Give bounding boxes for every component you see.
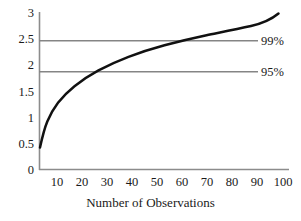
- x-tick-label-40: 40: [126, 176, 139, 189]
- reference-label-99: 99%: [261, 35, 284, 48]
- reference-label-95: 95%: [261, 66, 284, 79]
- x-tick-label-50: 50: [151, 176, 164, 189]
- chart-container: 0 0.5 1 1.5 2 2.5 3 10 20 30 40 50 60 70…: [0, 0, 301, 221]
- x-axis-title: Number of Observations: [0, 196, 301, 209]
- y-tick-label-1-5: 1.5: [4, 85, 34, 98]
- x-tick-label-30: 30: [101, 176, 114, 189]
- x-tick-label-60: 60: [176, 176, 189, 189]
- data-curve: [40, 14, 279, 148]
- x-tick-label-10: 10: [51, 176, 64, 189]
- x-tick-label-80: 80: [226, 176, 239, 189]
- y-tick-label-3: 3: [4, 7, 34, 20]
- x-tick-label-100: 100: [274, 176, 293, 189]
- x-tick-label-70: 70: [201, 176, 214, 189]
- x-tick-label-20: 20: [76, 176, 89, 189]
- y-tick-label-0-5: 0.5: [4, 138, 34, 151]
- x-tick-label-90: 90: [251, 176, 264, 189]
- y-tick-label-0: 0: [4, 164, 34, 177]
- y-tick-label-2: 2: [4, 59, 34, 72]
- y-tick-label-1: 1: [4, 111, 34, 124]
- y-tick-label-2-5: 2.5: [4, 33, 34, 46]
